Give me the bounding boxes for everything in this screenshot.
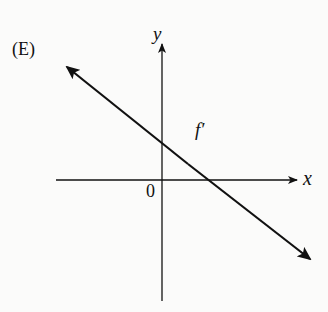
origin-label: 0 bbox=[146, 182, 155, 200]
f-prime-line-upper bbox=[67, 67, 188, 164]
f-prime-line bbox=[188, 164, 310, 259]
figure-E: (E) y x 0 f′ bbox=[0, 0, 328, 312]
y-axis-label: y bbox=[153, 24, 161, 43]
curve-label: f′ bbox=[195, 120, 204, 139]
x-axis-label: x bbox=[303, 168, 312, 188]
option-label: (E) bbox=[12, 40, 35, 58]
graph-canvas bbox=[0, 0, 328, 312]
